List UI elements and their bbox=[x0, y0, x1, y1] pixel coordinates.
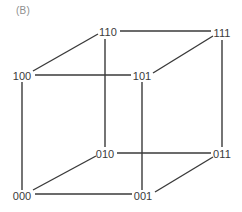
edge-group bbox=[22, 31, 222, 194]
cube-diagram-figure: (B) 110111100101010011000001 bbox=[0, 0, 242, 212]
cube-edge-000-010 bbox=[33, 156, 96, 190]
node-label-111: 111 bbox=[213, 28, 230, 39]
cube-graph-svg bbox=[0, 0, 242, 212]
node-label-100: 100 bbox=[13, 71, 32, 82]
node-label-010: 010 bbox=[96, 149, 115, 160]
node-label-101: 101 bbox=[133, 71, 152, 82]
node-label-001: 001 bbox=[134, 191, 153, 202]
node-label-000: 000 bbox=[13, 191, 32, 202]
node-label-110: 110 bbox=[99, 27, 117, 38]
cube-edge-001-011 bbox=[155, 157, 213, 192]
node-label-011: 011 bbox=[213, 149, 231, 160]
cube-edge-101-111 bbox=[153, 36, 213, 73]
cube-edge-100-110 bbox=[33, 34, 98, 71]
